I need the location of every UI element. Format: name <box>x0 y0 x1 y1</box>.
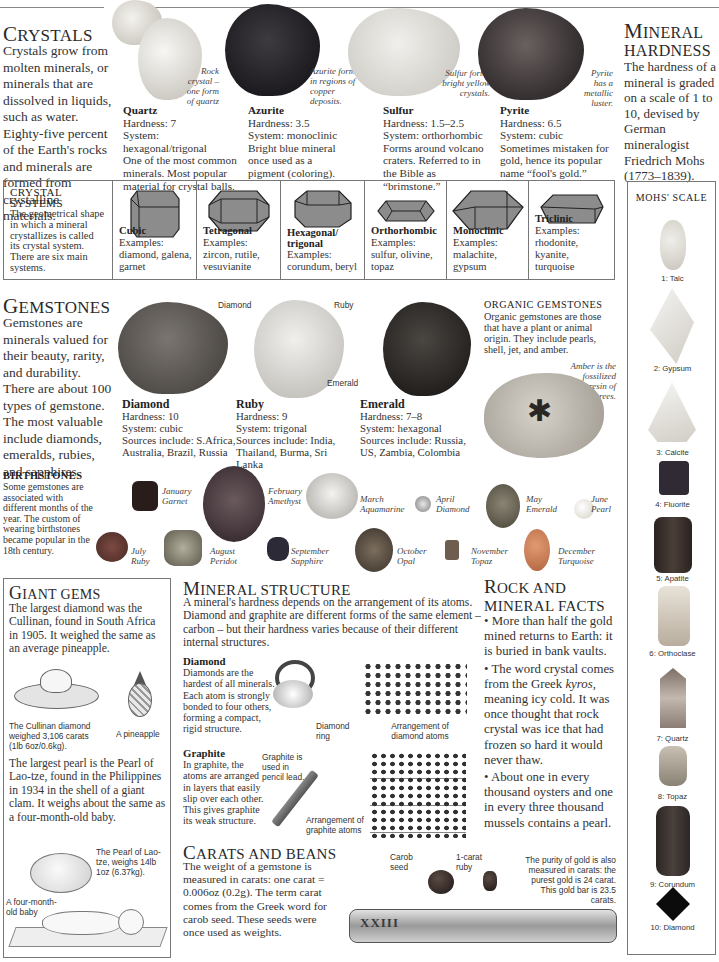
diamond-pointer-label: Diamond <box>218 300 252 310</box>
mohs-scale-title: MOHS' SCALE <box>628 192 715 203</box>
one-carat-ruby-image <box>483 871 497 891</box>
pyrite-image <box>478 8 584 100</box>
birthstone-sapphire <box>267 537 289 561</box>
top-rule-right <box>154 7 719 8</box>
azurite-system: System: monoclinic <box>248 129 338 142</box>
birthstone-topaz <box>445 540 459 560</box>
crystal-system-triclinic: TriclinicExamples:rhodonite, kyanite, tu… <box>528 181 614 279</box>
mineral-structure-intro: A mineral's hardness depends on the arra… <box>183 596 483 650</box>
triclinic-examples: rhodonite, kyanite, turquoise <box>535 237 610 273</box>
diamond-gem-hardness: Hardness: 10 <box>122 410 242 422</box>
gemstones-intro: Gemstones are minerals valued for their … <box>3 315 115 480</box>
sapphire-caption: SeptemberSapphire <box>291 546 329 566</box>
ruby-gem-hardness: Hardness: 9 <box>236 410 356 422</box>
quartz-caption: Rock crystal – one form of quartz <box>183 66 219 106</box>
birthstone-amethyst <box>203 466 265 542</box>
emerald-birthstone-caption: MayEmerald <box>526 494 557 514</box>
diamond-gem-name: Diamond <box>122 398 242 410</box>
mohs-scale-panel: MOHS' SCALE 1: Talc 2: Gypsum 3: Calcite… <box>627 181 716 955</box>
ruby-carat-caption: 1-carat ruby <box>456 852 486 872</box>
ruby-gem-name: Ruby <box>236 398 356 410</box>
pyrite-desc: Sometimes mistaken for gold, hence its p… <box>500 142 612 180</box>
birthstone-aquamarine <box>306 473 358 519</box>
azurite-hardness: Hardness: 3.5 <box>248 117 338 130</box>
birthstone-garnet <box>132 481 158 511</box>
quartz-name: Quartz <box>123 104 241 117</box>
mohs-label-diamond: 10: Diamond <box>628 923 717 932</box>
crystal-system-monoclinic: MonoclinicExamples:malachite, gypsum <box>446 181 528 279</box>
ruby-gem-info: Ruby Hardness: 9 System: trigonal Source… <box>236 398 356 470</box>
gold-bar-marking: XXIII <box>360 915 399 931</box>
pearl-caption: JunePearl <box>591 494 611 514</box>
azurite-name: Azurite <box>248 104 338 117</box>
sulfur-hardness: Hardness: 1.5–2.5 <box>383 117 495 130</box>
monoclinic-name: Monoclinic <box>453 225 524 237</box>
pineapple-caption: A pineapple <box>116 729 160 739</box>
quartz-system: System: hexagonal/trigonal <box>123 129 241 154</box>
crystal-system-tetragonal: TetragonalExamples:zircon, rutile, vesuv… <box>196 181 280 279</box>
birthstone-peridot <box>164 530 202 566</box>
apatite-image <box>654 517 692 573</box>
birthstone-diamond <box>415 496 431 512</box>
organic-gemstones-text: Organic gemstones are those that have a … <box>484 311 612 355</box>
crystal-systems-table: CRYSTAL SYSTEMS The geometrical shape in… <box>3 180 615 280</box>
quartz-scale-image <box>660 668 686 728</box>
graphite-structure-title: Graphite <box>183 748 269 759</box>
orthorhombic-name: Orthorhombic <box>371 225 442 237</box>
cubic-examples-label: Examples: <box>119 237 192 249</box>
cullinan-caption: The Cullinan diamond weighed 3,106 carat… <box>9 721 99 751</box>
diamond-birthstone-caption: AprilDiamond <box>436 494 470 514</box>
birthstones-text: Some gemstones are associated with diffe… <box>3 482 93 556</box>
emerald-gem-info: Emerald Hardness: 7–8 System: hexagonal … <box>360 398 478 458</box>
turquoise-caption: DecemberTurquoise <box>558 546 595 566</box>
diamond-gem-sources: Sources include: S.Africa, Australia, Br… <box>122 434 242 458</box>
topaz-image <box>659 746 687 786</box>
orthorhombic-examples-label: Examples: <box>371 237 442 249</box>
hexagonal-examples: corundum, beryl <box>287 261 360 273</box>
emerald-gem-hardness: Hardness: 7–8 <box>360 410 478 422</box>
diamond-scale-image <box>656 887 690 921</box>
pencil-caption: Graphite is used in pencil lead. <box>262 752 308 782</box>
giant-gems-text-1: The largest diamond was the Cullinan, fo… <box>9 602 167 656</box>
triclinic-name: Triclinic <box>535 213 610 225</box>
ruby-gem-sources: Sources include: India, Thailand, Burma,… <box>236 434 356 470</box>
triclinic-examples-label: Examples: <box>535 225 610 237</box>
gold-purity-caption: The purity of gold is also measured in c… <box>524 855 616 905</box>
cubic-name: Cubic <box>119 225 192 237</box>
cubic-examples: diamond, galena, garnet <box>119 249 192 273</box>
graphite-structure-info: Graphite In graphite, the atoms are arra… <box>183 748 269 826</box>
facts-list: • More than half the gold mined returns … <box>484 614 616 831</box>
diamond-ring-image <box>271 660 317 710</box>
mineral-hardness-text: The hardness of a mineral is graded on a… <box>624 59 718 184</box>
mohs-label-talc: 1: Talc <box>628 274 717 283</box>
fact-item: • About one in every thousand oysters an… <box>484 770 616 831</box>
fact-item: • More than half the gold mined returns … <box>484 614 616 660</box>
diamond-atoms-diagram <box>363 662 467 718</box>
pyrite-caption: Pyrite has a metallic luster. <box>577 68 613 108</box>
pyrite-name: Pyrite <box>500 104 612 117</box>
diamond-gem-info: Diamond Hardness: 10 System: cubic Sourc… <box>122 398 242 458</box>
mohs-label-topaz: 8: Topaz <box>628 792 717 801</box>
orthoclase-image <box>658 586 690 646</box>
talc-image <box>660 220 686 270</box>
pineapple-illustration <box>126 671 154 717</box>
crystal-systems-text: The geometrical shape in which a mineral… <box>10 209 106 274</box>
azurite-desc: Bright blue mineral once used as a pigme… <box>248 142 338 180</box>
top-rule-left <box>0 7 104 8</box>
graphite-atoms-caption: Arrangement of graphite atoms <box>306 815 376 835</box>
opal-caption: OctoberOpal <box>397 546 427 566</box>
mohs-label-gypsum: 2: Gypsum <box>628 364 717 373</box>
tetragonal-examples: zircon, rutile, vesuvianite <box>203 249 276 273</box>
emerald-pointer-label: Emerald <box>327 378 358 388</box>
pearl-caption: The Pearl of Lao-tze, weighs 14lb 1oz (6… <box>96 847 168 877</box>
garnet-caption: JanuaryGarnet <box>162 486 192 506</box>
calcite-image <box>648 382 696 442</box>
hexagonal-name: Hexagonal/ trigonal <box>287 227 360 249</box>
spider-icon: ✱ <box>527 396 552 426</box>
tetragonal-name: Tetragonal <box>203 225 276 237</box>
pyrite-hardness: Hardness: 6.5 <box>500 117 612 130</box>
quartz-hardness: Hardness: 7 <box>123 117 241 130</box>
emerald-gem-name: Emerald <box>360 398 478 410</box>
giant-gems-text-2: The largest pearl is the Pearl of Lao-tz… <box>9 757 167 824</box>
amethyst-caption: FebruaryAmethyst <box>268 486 302 506</box>
